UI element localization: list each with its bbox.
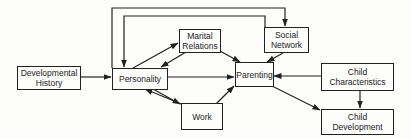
node-parenting: Parenting <box>235 62 274 87</box>
edge-parenting-childdev <box>272 86 320 110</box>
diagram-canvas: Developmental History Personality Marita… <box>0 0 411 139</box>
node-label: Parenting <box>236 70 272 80</box>
node-personality: Personality <box>112 68 168 90</box>
edge-marital-parenting <box>220 51 240 62</box>
edge-social-parenting <box>267 53 283 62</box>
node-label: Child Development <box>332 112 382 132</box>
node-developmental-history: Developmental History <box>17 66 81 90</box>
node-label: Social Network <box>271 30 302 50</box>
node-marital-relations: Marital Relations <box>179 29 221 53</box>
node-work: Work <box>181 103 223 130</box>
node-label: Personality <box>119 74 161 84</box>
node-child-characteristics: Child Characteristics <box>321 63 394 91</box>
node-label: Marital Relations <box>182 31 217 51</box>
edge-work-personality <box>145 89 186 106</box>
edge-marital-personality <box>161 52 186 67</box>
node-label: Work <box>192 112 212 122</box>
node-social-network: Social Network <box>264 27 309 53</box>
node-label: Developmental History <box>21 68 78 88</box>
node-child-development: Child Development <box>321 109 394 135</box>
edge-personality-marital <box>133 43 178 68</box>
node-label: Child Characteristics <box>329 67 385 87</box>
